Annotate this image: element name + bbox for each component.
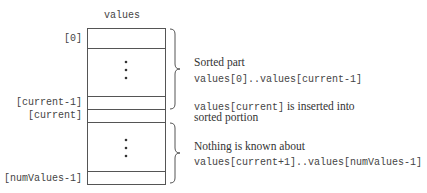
brace-unknown [170, 123, 180, 183]
sorted-heading: Sorted part [194, 56, 245, 68]
unknown-range: values[current+1]..values[numValues-1] [194, 157, 422, 168]
index-label-last: [numValues-1] [0, 173, 82, 184]
inserted-text-2: sorted portion [194, 111, 258, 123]
brace-sorted [170, 29, 180, 109]
unknown-heading: Nothing is known about [194, 140, 305, 152]
inserted-text: is inserted into [284, 100, 355, 112]
array-title: values [104, 10, 140, 21]
index-label-first: [0] [0, 33, 82, 44]
array-box [88, 29, 166, 185]
index-label-current: [current] [0, 110, 82, 121]
ellipsis-dots-unknown [125, 139, 128, 158]
ellipsis-dots-sorted [125, 61, 128, 80]
sorted-range: values[0]..values[current-1] [194, 74, 362, 85]
index-label-current-minus-1: [current-1] [0, 97, 82, 108]
